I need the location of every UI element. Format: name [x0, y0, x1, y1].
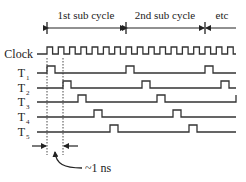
svg-text:5: 5 — [26, 133, 30, 141]
timing-diagram: 1st sub cycle 2nd sub cycle etc Clock T1… — [0, 0, 246, 182]
t5-waveform — [37, 125, 236, 132]
second-sub-cycle-label: 2nd sub cycle — [135, 9, 196, 21]
t1-waveform — [37, 66, 236, 73]
cycle-arrows — [47, 22, 236, 34]
svg-text:1: 1 — [26, 74, 30, 82]
t2-waveform — [37, 81, 236, 88]
t4-waveform — [37, 110, 236, 117]
t1-label: T1 — [18, 66, 30, 82]
clock-waveform — [37, 47, 236, 54]
svg-text:4: 4 — [26, 118, 30, 126]
svg-text:3: 3 — [26, 103, 30, 111]
svg-text:T: T — [18, 110, 26, 124]
waveforms — [37, 47, 236, 132]
svg-text:T: T — [18, 95, 26, 109]
svg-text:T: T — [18, 81, 26, 95]
pointer-arrow — [55, 152, 82, 168]
svg-text:T: T — [18, 125, 26, 139]
t4-label: T4 — [18, 110, 30, 126]
clock-label: Clock — [4, 47, 33, 61]
interval-label: ~1 ns — [85, 161, 111, 175]
svg-text:2: 2 — [26, 89, 30, 97]
t5-label: T5 — [18, 125, 30, 141]
t3-label: T3 — [18, 95, 30, 111]
first-sub-cycle-label: 1st sub cycle — [58, 9, 115, 21]
etc-label: etc — [216, 9, 229, 21]
svg-text:T: T — [18, 66, 26, 80]
t3-waveform — [37, 95, 236, 102]
